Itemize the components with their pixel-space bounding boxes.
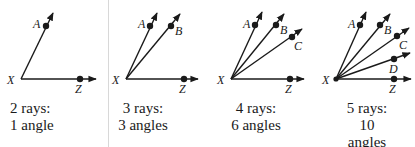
point-label: C: [294, 39, 303, 53]
caption-rays: 5 rays:: [343, 100, 391, 117]
rays-angles-figure: AZXABZXABCZXABCDZX 2 rays: 1 angle 3 ray…: [0, 0, 415, 147]
point-a: [147, 23, 153, 29]
caption-rays: 3 rays:: [118, 100, 168, 117]
panel-3: ABCZX: [216, 12, 304, 96]
ray-xa: A: [21, 13, 53, 79]
point-label: D: [388, 62, 398, 76]
caption-angles: 10 angles: [343, 117, 391, 147]
point-label: A: [137, 17, 146, 31]
ray-xb: B: [126, 14, 183, 79]
point-label: B: [384, 23, 392, 37]
panel-divider: [108, 0, 109, 147]
caption-angles: 6 angles: [231, 117, 281, 134]
caption-panel-3: 4 rays: 6 angles: [231, 100, 281, 134]
ray-xz: Z: [21, 76, 96, 96]
point-b: [377, 22, 383, 28]
point-label: C: [399, 38, 408, 52]
caption-panel-2: 3 rays: 3 angles: [118, 100, 168, 134]
caption-panel-1: 2 rays: 1 angle: [10, 100, 54, 134]
point-b: [273, 22, 279, 28]
point-b: [168, 23, 174, 29]
point-label: Z: [285, 82, 292, 96]
caption-panel-4: 5 rays: 10 angles: [343, 100, 391, 147]
vertex-label: X: [111, 73, 120, 87]
point-label: Z: [389, 82, 396, 96]
ray-xz: Z: [126, 76, 198, 96]
vertex-label: X: [6, 73, 15, 87]
ray-xz: Z: [231, 76, 304, 96]
panel-2: ABZX: [111, 13, 198, 96]
point-label: Z: [75, 82, 82, 96]
panel-1: AZX: [6, 13, 96, 96]
point-label: A: [32, 17, 41, 31]
ray-xa: A: [231, 12, 262, 79]
point-label: B: [175, 24, 183, 38]
point-label: A: [242, 17, 251, 31]
point-a: [43, 23, 49, 29]
caption-rays: 2 rays:: [10, 100, 54, 117]
point-label: Z: [179, 82, 186, 96]
caption-rays: 4 rays:: [231, 100, 281, 117]
vertex-label: X: [321, 73, 330, 87]
point-a: [252, 22, 258, 28]
vertex-label: X: [216, 73, 225, 87]
caption-angles: 1 angle: [10, 117, 54, 134]
caption-angles: 3 angles: [118, 117, 168, 134]
vertex-dot: [333, 76, 338, 81]
point-label: B: [280, 23, 288, 37]
point-label: A: [347, 17, 356, 31]
ray-xz: Z: [336, 76, 411, 96]
panel-4: ABCDZX: [321, 12, 411, 96]
ray-xa: A: [126, 13, 157, 79]
ray-xb: B: [231, 14, 288, 79]
point-a: [357, 22, 363, 28]
